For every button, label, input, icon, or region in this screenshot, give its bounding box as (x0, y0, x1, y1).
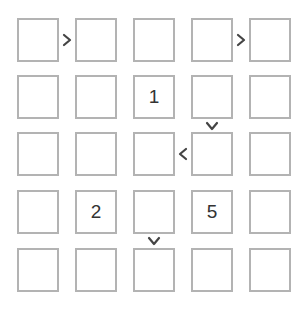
less-than-icon (176, 147, 190, 161)
grid-cell-r5-c2[interactable] (75, 248, 117, 292)
grid-cell-r4-c4[interactable]: 5 (191, 190, 233, 234)
grid-cell-r3-c1[interactable] (17, 132, 59, 176)
chevron-down-icon (205, 119, 219, 133)
grid-cell-r4-c3[interactable] (133, 190, 175, 234)
grid-cell-r1-c5[interactable] (249, 18, 291, 62)
greater-than-icon (60, 33, 74, 47)
chevron-down-icon (147, 234, 161, 248)
grid-cell-r3-c4[interactable] (191, 132, 233, 176)
grid-cell-r2-c5[interactable] (249, 75, 291, 119)
grid-cell-r2-c1[interactable] (17, 75, 59, 119)
grid-cell-r5-c4[interactable] (191, 248, 233, 292)
greater-than-icon (234, 33, 248, 47)
grid-cell-r5-c1[interactable] (17, 248, 59, 292)
grid-cell-r2-c3[interactable]: 1 (133, 75, 175, 119)
grid-cell-r3-c3[interactable] (133, 132, 175, 176)
grid-cell-r4-c2[interactable]: 2 (75, 190, 117, 234)
grid-cell-r5-c5[interactable] (249, 248, 291, 292)
grid-cell-r1-c3[interactable] (133, 18, 175, 62)
grid-cell-r5-c3[interactable] (133, 248, 175, 292)
grid-cell-r4-c1[interactable] (17, 190, 59, 234)
grid-cell-r1-c4[interactable] (191, 18, 233, 62)
grid-cell-r1-c2[interactable] (75, 18, 117, 62)
grid-cell-r2-c2[interactable] (75, 75, 117, 119)
grid-cell-r3-c5[interactable] (249, 132, 291, 176)
grid-cell-r4-c5[interactable] (249, 190, 291, 234)
grid-cell-r3-c2[interactable] (75, 132, 117, 176)
futoshiki-board: 125 (0, 0, 306, 309)
grid-cell-r1-c1[interactable] (17, 18, 59, 62)
grid-cell-r2-c4[interactable] (191, 75, 233, 119)
